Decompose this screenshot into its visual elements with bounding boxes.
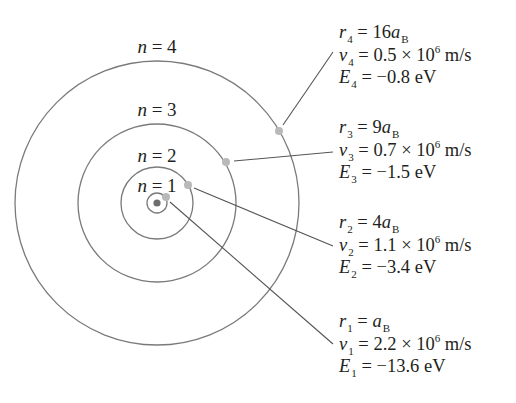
leader-line-n3 <box>234 152 333 161</box>
info-block-n3: r3 = 9aB v3 = 0.7 × 106 m/s E3 = −1.5 eV <box>339 116 472 184</box>
radius-line: r4 = 16aB <box>339 21 472 44</box>
info-block-n4: r4 = 16aB v4 = 0.5 × 106 m/s E4 = −0.8 e… <box>339 21 472 89</box>
energy-line: E4 = −0.8 eV <box>339 66 472 89</box>
energy-line: E1 = −13.6 eV <box>339 355 472 378</box>
orbit-label-n1: n = 1 <box>137 175 176 196</box>
electron-icon-n4 <box>275 127 283 135</box>
velocity-line: v1 = 2.2 × 106 m/s <box>339 333 472 356</box>
velocity-line: v3 = 0.7 × 106 m/s <box>339 139 472 162</box>
energy-line: E3 = −1.5 eV <box>339 161 472 184</box>
nucleus-icon <box>153 199 160 206</box>
orbit-label-n2: n = 2 <box>137 145 176 166</box>
radius-line: r2 = 4aB <box>339 211 472 234</box>
orbit-label-n4: n = 4 <box>137 36 177 57</box>
orbit-label-n3: n = 3 <box>137 99 176 120</box>
velocity-line: v4 = 0.5 × 106 m/s <box>339 44 472 67</box>
velocity-line: v2 = 1.1 × 106 m/s <box>339 234 472 257</box>
electron-icon-n3 <box>222 158 230 166</box>
radius-line: r1 = aB <box>339 310 472 333</box>
energy-line: E2 = −3.4 eV <box>339 256 472 279</box>
leader-line-n4 <box>283 52 333 125</box>
electron-icon-n2 <box>184 181 192 189</box>
info-block-n1: r1 = aB v1 = 2.2 × 106 m/s E1 = −13.6 eV <box>339 310 472 378</box>
radius-line: r3 = 9aB <box>339 116 472 139</box>
leader-line-n2 <box>194 188 333 246</box>
info-block-n2: r2 = 4aB v2 = 1.1 × 106 m/s E2 = −3.4 eV <box>339 211 472 279</box>
